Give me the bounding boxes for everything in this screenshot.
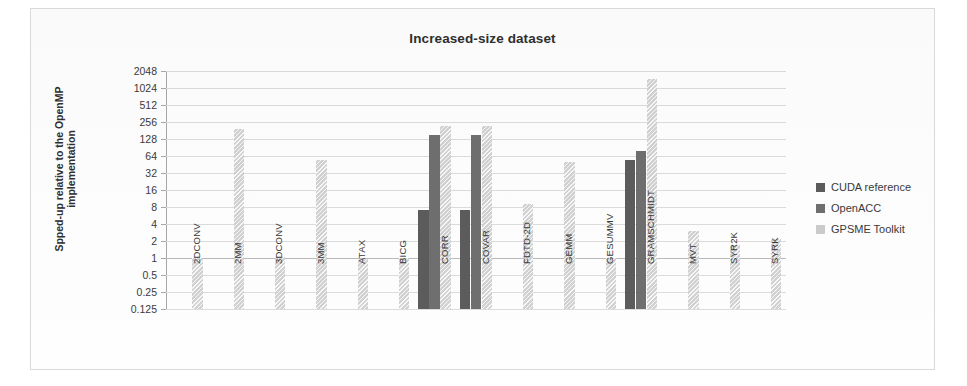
bar-group: [253, 71, 286, 309]
x-category-label: COVAR: [480, 230, 491, 264]
bar-group: [377, 71, 410, 309]
x-category-label: 3DCONV: [273, 223, 284, 264]
bar-group: [212, 71, 245, 309]
bar: [625, 160, 636, 309]
x-category-label: 2MM: [232, 242, 243, 264]
x-category-label: SYRK: [769, 237, 780, 264]
y-tick-mark: [161, 275, 166, 276]
x-category-label: GESUMMV: [604, 214, 615, 265]
y-tick-mark: [161, 207, 166, 208]
bar: [482, 126, 493, 309]
legend-swatch-icon: [816, 183, 825, 192]
legend-label: CUDA reference: [831, 181, 911, 193]
y-tick-mark: [161, 88, 166, 89]
bar-group: [460, 71, 493, 309]
y-tick-mark: [161, 156, 166, 157]
x-category-label: SYR2K: [728, 232, 739, 264]
bar-group: [708, 71, 741, 309]
bar-group: [749, 71, 782, 309]
bar-group: [294, 71, 327, 309]
bar-group: [336, 71, 369, 309]
y-tick-label: 512: [91, 100, 157, 110]
legend-item[interactable]: CUDA reference: [816, 181, 911, 193]
x-category-label: 3MM: [315, 242, 326, 264]
y-tick-label: 16: [91, 185, 157, 195]
y-tick-mark: [161, 122, 166, 123]
bar-group: [666, 71, 699, 309]
x-category-label: MVT: [687, 243, 698, 264]
legend-item[interactable]: GPSME Toolkit: [816, 223, 911, 235]
y-tick-label: 2048: [91, 66, 157, 76]
x-category-label: ATAX: [356, 240, 367, 264]
legend-swatch-icon: [816, 204, 825, 213]
bar-group: [542, 71, 575, 309]
bar: [440, 126, 451, 309]
chart-legend: CUDA referenceOpenACCGPSME Toolkit: [816, 181, 911, 244]
y-tick-label: 256: [91, 117, 157, 127]
y-tick-label: 64: [91, 151, 157, 161]
bar-group: [418, 71, 451, 309]
y-tick-mark: [161, 105, 166, 106]
y-tick-mark: [161, 258, 166, 259]
x-category-label: FDTD-2D: [521, 222, 532, 264]
y-tick-mark: [161, 241, 166, 242]
y-axis-title: Spped-up relative to the OpenMP implemen…: [53, 44, 75, 294]
y-tick-mark: [161, 224, 166, 225]
legend-item[interactable]: OpenACC: [816, 202, 911, 214]
bar: [399, 258, 410, 309]
bar-group: [584, 71, 617, 309]
y-tick-label: 8: [91, 202, 157, 212]
bar: [234, 129, 245, 309]
plot-area: [166, 71, 786, 309]
bar-group: [501, 71, 534, 309]
x-category-label: 2DCONV: [191, 223, 202, 264]
y-tick-label: 2: [91, 236, 157, 246]
y-tick-label: 1024: [91, 83, 157, 93]
y-tick-mark: [161, 139, 166, 140]
bar: [358, 259, 369, 309]
x-category-label: CORR: [439, 235, 450, 264]
y-tick-mark: [161, 71, 166, 72]
bar: [316, 160, 327, 309]
bar: [192, 258, 203, 309]
y-tick-label: 32: [91, 168, 157, 178]
y-tick-label: 128: [91, 134, 157, 144]
chart-frame: Increased-size dataset Spped-up relative…: [30, 8, 935, 370]
y-tick-mark: [161, 309, 166, 310]
bar-group: [170, 71, 203, 309]
bar: [418, 210, 429, 309]
x-category-label: BICG: [397, 240, 408, 264]
y-tick-mark: [161, 190, 166, 191]
bar: [275, 257, 286, 309]
chart-title: Increased-size dataset: [31, 31, 934, 46]
y-tick-label: 0.25: [91, 287, 157, 297]
bar: [606, 258, 617, 309]
y-tick-label: 1: [91, 253, 157, 263]
legend-label: GPSME Toolkit: [831, 223, 905, 235]
bar: [429, 135, 440, 309]
x-category-label: GEMM: [563, 234, 574, 264]
y-tick-mark: [161, 173, 166, 174]
x-category-label: GRAMSCHMIDT: [645, 190, 656, 264]
y-tick-label: 0.5: [91, 270, 157, 280]
legend-label: OpenACC: [831, 202, 881, 214]
bar: [471, 135, 482, 309]
y-tick-label: 0.125: [91, 304, 157, 314]
y-tick-label: 4: [91, 219, 157, 229]
gridline: [166, 309, 786, 310]
bar: [460, 210, 471, 309]
y-tick-mark: [161, 292, 166, 293]
legend-swatch-icon: [816, 225, 825, 234]
